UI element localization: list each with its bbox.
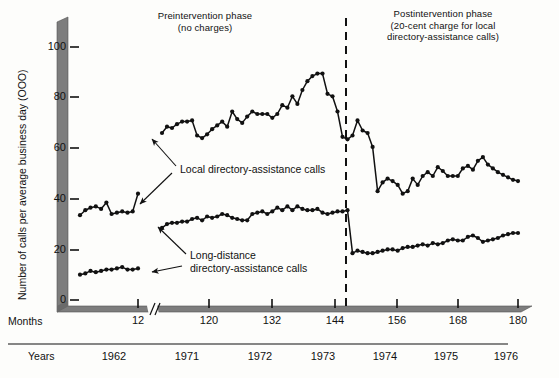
x-tick-label-156: 156 [377,314,417,326]
x-tick-label-180: 180 [498,314,538,326]
year-label-1962: 1962 [86,350,142,362]
preintervention-phase-title: Preintervention phase (no charges) [130,10,280,33]
row-label-months: Months [8,315,42,327]
y-tick-label-20: 20 [14,243,66,255]
x-tick-label-132: 132 [252,314,292,326]
y-tick-label-40: 40 [14,192,66,204]
y-axis-title: Number of calls per average business day… [16,69,28,300]
chart-figure: Number of calls per average business day… [0,0,559,378]
row-label-years: Years [28,350,54,362]
y-tick-label-100: 100 [14,40,66,52]
x-tick-label-120: 120 [189,314,229,326]
x-tick-label-144: 144 [315,314,355,326]
x-axis-band [57,306,532,312]
y-tick-label-0: 0 [14,293,66,305]
y-tick-label-80: 80 [14,90,66,102]
annotation-local-calls: Local directory-assistance calls [180,163,325,176]
year-label-1974: 1974 [357,350,413,362]
year-label-1976: 1976 [478,350,534,362]
year-label-1971: 1971 [159,350,215,362]
x-tick-label-12: 12 [118,314,158,326]
year-label-1975: 1975 [418,350,474,362]
series-local-calls [78,72,520,218]
x-tick-label-168: 168 [438,314,478,326]
annotation-leaders [140,139,186,272]
y-axis-band [57,17,68,312]
postintervention-phase-title: Postintervention phase (20-cent charge f… [358,8,528,43]
y-tick-label-60: 60 [14,141,66,153]
annotation-long-distance-calls: Long-distance directory-assistance calls [190,249,307,274]
y-tick-marks [70,47,79,300]
year-label-1973: 1973 [295,350,351,362]
year-label-1972: 1972 [232,350,288,362]
